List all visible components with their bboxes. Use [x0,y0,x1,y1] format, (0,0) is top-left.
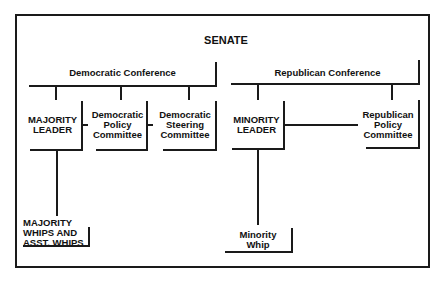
minority-leader-box: MINORITY LEADER [229,115,284,135]
majority-leader-box: MAJORITY LEADER [25,115,80,135]
rep-policy-box-bottom [366,147,420,149]
republican-conference-label: Republican Conference [265,68,390,78]
dem-policy-drop [120,86,122,100]
majority-whips-box-right [88,227,90,247]
rep-policy-committee-box: Republican Policy Committee [358,110,418,140]
dem-steering-committee-box: Democratic Steering Committee [156,110,214,140]
majority-whips-box-bottom [23,245,90,247]
minority-whip-box-right [291,228,293,253]
democratic-conference-label: Democratic Conference [60,68,185,78]
rep-policy-drop [391,84,393,100]
dem-steering-line3: Committee [156,130,214,140]
rep-policy-line3: Committee [358,130,418,140]
majority-leader-box-right [81,101,83,151]
majority-to-policy-connector [82,124,88,126]
policy-to-steering-connector [147,124,153,126]
majority-whips-box: MAJORITY WHIPS AND ASST. WHIPS [23,218,93,248]
minority-to-rep-policy-connector [284,124,358,126]
minority-leader-line2: LEADER [229,125,284,135]
minority-whip-box: Minority Whip [232,230,284,250]
majority-whip-connector [56,150,58,216]
majority-leader-drop [55,86,57,100]
dem-policy-committee-box: Democratic Policy Committee [89,110,146,140]
democratic-conference-bracket [215,62,217,87]
dem-steering-box-right [215,101,217,151]
minority-whip-connector [257,149,259,225]
dem-policy-line3: Committee [89,130,146,140]
rep-policy-box-right [418,100,420,149]
minority-whip-line2: Whip [232,240,284,250]
senate-title: SENATE [196,35,256,45]
dem-policy-box-right [146,101,148,151]
dem-steering-drop [188,86,190,100]
minority-whip-box-bottom [225,251,293,253]
dem-policy-box-bottom [96,149,148,151]
dem-steering-box-bottom [163,149,217,151]
republican-conference-bracket [418,60,420,85]
minority-leader-drop [257,84,259,100]
majority-leader-line2: LEADER [25,125,80,135]
